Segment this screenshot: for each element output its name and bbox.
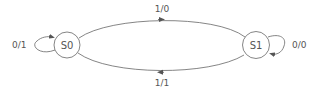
state-diagram: 1/0 1/1 0/1 0/0 S0 S1 (0, 0, 323, 90)
transition-s1-to-s0: 1/1 (78, 53, 244, 88)
transition-s0-to-s1: 1/0 (79, 4, 245, 38)
self-loop-s0: 0/1 (12, 37, 55, 52)
self-loop-s1: 0/0 (268, 36, 307, 55)
state-s1: S1 (243, 32, 270, 59)
transition-label-0-0: 0/0 (292, 40, 307, 50)
transition-label-1-1: 1/1 (155, 78, 169, 88)
state-s0: S0 (54, 32, 80, 58)
state-label-s1: S1 (250, 40, 263, 51)
state-label-s0: S0 (61, 40, 74, 51)
transition-label-1-0: 1/0 (155, 4, 170, 14)
transition-label-0-1: 0/1 (12, 40, 26, 50)
